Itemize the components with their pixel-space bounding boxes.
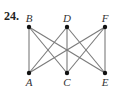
- node-label-A: A: [25, 76, 33, 88]
- node-D: [65, 25, 69, 29]
- node-A: [27, 71, 31, 75]
- node-label-F: F: [101, 12, 109, 24]
- node-label-B: B: [26, 12, 33, 24]
- node-C: [65, 71, 69, 75]
- node-label-D: D: [62, 12, 71, 24]
- bipartite-graph: BDFACE: [0, 0, 113, 106]
- node-label-E: E: [101, 76, 109, 88]
- graph-edges: [29, 27, 105, 73]
- node-label-C: C: [63, 76, 71, 88]
- node-E: [103, 71, 107, 75]
- node-B: [27, 25, 31, 29]
- node-F: [103, 25, 107, 29]
